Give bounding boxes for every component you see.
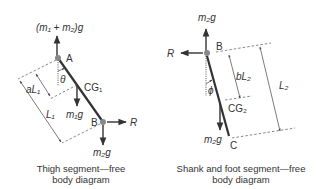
thigh-bottom-force-label: m₂g xyxy=(93,147,111,158)
phi-label: ϕ xyxy=(208,85,214,96)
theta-label: θ xyxy=(60,74,66,85)
m1g-label: m₁g xyxy=(66,109,83,120)
joint-c-label: C xyxy=(230,140,237,151)
shank-caption-line1: Shank and foot segment—free xyxy=(177,163,306,174)
thigh-caption-line1: Thigh segment—free xyxy=(37,163,126,174)
dash-perp-b2 xyxy=(216,43,271,52)
dim-l1-label: L₁ xyxy=(46,109,55,120)
theta-arc xyxy=(58,68,64,71)
free-body-diagrams: (m₁ + m₂)g θ A B aL₁ L₁ CG₁ m₁g R m₂g xyxy=(0,0,321,189)
shank-segment xyxy=(207,56,229,136)
shank-weight-label: m₂g xyxy=(204,134,222,145)
dash-perp-b xyxy=(62,124,100,143)
dim-arrow-l2 xyxy=(260,47,280,131)
dash-perp-cg2 xyxy=(225,96,252,100)
dim-l2-label: L₂ xyxy=(279,80,289,91)
dim-arrow-l1 xyxy=(20,81,61,142)
thigh-diagram: (m₁ + m₂)g θ A B aL₁ L₁ CG₁ m₁g R m₂g xyxy=(18,22,137,185)
shank-top-force-label: m₂g xyxy=(198,12,216,23)
phi-arc xyxy=(206,80,212,84)
thigh-r-label: R xyxy=(130,117,137,128)
dash-perp-c xyxy=(232,128,295,138)
cg2-label: CG₂ xyxy=(228,103,247,114)
dash-perp-cg xyxy=(50,85,77,99)
joint-b2-dot xyxy=(204,50,210,56)
shank-caption-line2: body diagram xyxy=(212,174,270,185)
dim-bl2-label: bL₂ xyxy=(236,71,251,82)
thigh-caption-line2: body diagram xyxy=(52,174,110,185)
cg1-label: CG₁ xyxy=(84,82,103,93)
joint-a-label: A xyxy=(66,53,73,64)
joint-b2-label: B xyxy=(216,41,223,52)
thigh-top-force-label: (m₁ + m₂)g xyxy=(36,22,84,33)
joint-b-label: B xyxy=(91,117,98,128)
shank-r-label: R xyxy=(167,48,174,59)
joint-b-dot xyxy=(100,119,106,125)
shank-diagram: m₂g R ϕ B C bL₂ L₂ CG₂ m₂g Shank and foo… xyxy=(167,12,305,185)
